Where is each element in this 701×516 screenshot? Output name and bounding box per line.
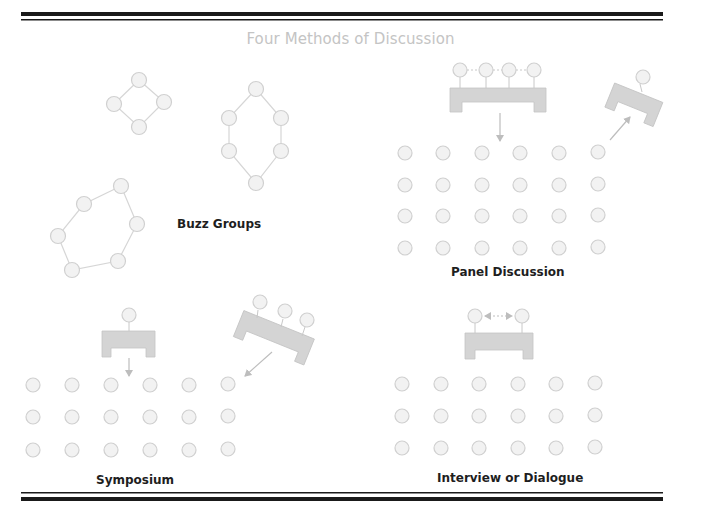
label-panel-discussion: Panel Discussion — [451, 265, 565, 279]
diagram-graphics — [0, 0, 701, 516]
interview-dialogue-diagram — [395, 309, 602, 455]
top-rule — [21, 12, 663, 21]
bottom-rule — [21, 492, 663, 501]
diagram-canvas: Four Methods of Discussion Buzz Groups P… — [0, 0, 701, 516]
label-buzz-groups: Buzz Groups — [177, 217, 261, 231]
symposium-diagram — [26, 295, 314, 457]
buzz-groups-members — [51, 73, 289, 278]
label-symposium: Symposium — [96, 473, 174, 487]
diagram-title: Four Methods of Discussion — [0, 30, 701, 48]
buzz-groups-diagram — [58, 80, 281, 270]
panel-discussion-diagram — [398, 63, 663, 255]
label-interview-dialogue: Interview or Dialogue — [437, 471, 583, 485]
